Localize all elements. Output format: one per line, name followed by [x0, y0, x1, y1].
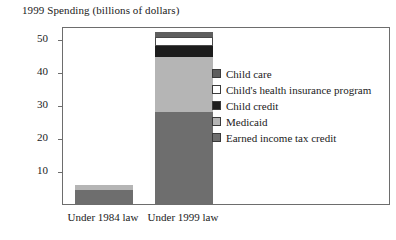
- y-axis-tick-label: 50: [37, 32, 48, 44]
- bar-segment-earned-income-tax-credit[interactable]: [75, 190, 133, 204]
- y-axis-tick-label: 40: [37, 65, 48, 77]
- stacked-bar-chart: 1999 Spending (billions of dollars) 10 2…: [0, 0, 396, 240]
- legend-swatch-icon: [212, 69, 221, 78]
- bar-segment-child-credit[interactable]: [155, 46, 213, 57]
- legend-item[interactable]: Child care: [212, 66, 371, 81]
- bar-under-1999-law[interactable]: [155, 32, 213, 204]
- legend-item[interactable]: Earned income tax credit: [212, 130, 371, 145]
- legend-item-label: Child credit: [226, 100, 278, 112]
- legend-item[interactable]: Child credit: [212, 98, 371, 113]
- y-axis-tick-label: 10: [37, 164, 48, 176]
- chart-legend: Child careChild's health insurance progr…: [212, 66, 371, 146]
- x-axis-label-under-1999-law: Under 1999 law: [123, 211, 243, 223]
- legend-item[interactable]: Child's health insurance program: [212, 82, 371, 97]
- bar-segment-child-care[interactable]: [155, 32, 213, 37]
- legend-swatch-icon: [212, 85, 221, 94]
- y-axis-tick-label: 20: [37, 131, 48, 143]
- legend-item-label: Child care: [226, 68, 272, 80]
- bar-segment-medicaid[interactable]: [155, 57, 213, 111]
- bar-segment-medicaid[interactable]: [75, 185, 133, 190]
- legend-item-label: Earned income tax credit: [226, 132, 336, 144]
- legend-item-label: Child's health insurance program: [226, 84, 371, 96]
- legend-swatch-icon: [212, 101, 221, 110]
- legend-item-label: Medicaid: [226, 116, 268, 128]
- y-axis: 10 20 30 40 50: [0, 0, 62, 206]
- legend-swatch-icon: [212, 117, 221, 126]
- bar-under-1984-law[interactable]: [75, 185, 133, 204]
- legend-item[interactable]: Medicaid: [212, 114, 371, 129]
- bar-segment-earned-income-tax-credit[interactable]: [155, 112, 213, 204]
- bar-segment-child-s-health-insurance-program[interactable]: [155, 37, 213, 46]
- y-axis-tick-label: 30: [37, 98, 48, 110]
- legend-swatch-icon: [212, 133, 221, 142]
